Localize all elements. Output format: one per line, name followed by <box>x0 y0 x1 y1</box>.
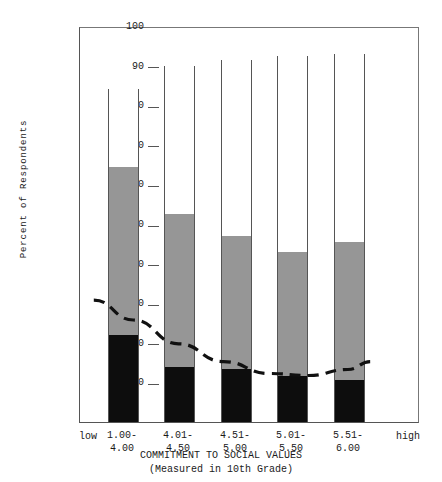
y-tick-line <box>148 305 159 306</box>
bar-5[interactable] <box>334 54 365 422</box>
bar-2-bottom-segment <box>165 367 194 422</box>
y-tick-line <box>148 384 159 385</box>
y-tick-line <box>148 344 159 345</box>
x-category-line: 4.51- <box>205 429 265 442</box>
y-tick-label: 90 <box>132 61 144 72</box>
plot-area: 100908070605040302010 <box>79 27 419 423</box>
bar-1-middle-segment <box>109 167 138 335</box>
x-category-line: 4.01- <box>148 429 208 442</box>
y-tick-line <box>148 226 159 227</box>
x-axis-title-sub: (Measured in 10th Grade) <box>0 463 442 477</box>
bar-3-bottom-segment <box>222 369 251 422</box>
bar-5-bottom-segment <box>335 380 364 422</box>
x-category-line: 5.51- <box>318 429 378 442</box>
y-tick-label: 100 <box>126 21 144 32</box>
x-category-line: 5.01- <box>261 429 321 442</box>
x-category-line: 1.00- <box>92 429 152 442</box>
y-tick-line <box>148 67 159 68</box>
bar-3-top-segment <box>222 60 251 236</box>
y-tick-line <box>148 265 159 266</box>
chart-figure: Percent of Respondents 10090807060504030… <box>0 0 442 482</box>
x-axis-low-label: low <box>79 431 97 442</box>
x-axis-high-label: high <box>396 431 420 442</box>
bar-2[interactable] <box>164 66 195 422</box>
bar-3-middle-segment <box>222 236 251 369</box>
bar-4[interactable] <box>277 56 308 422</box>
bar-1-bottom-segment <box>109 335 138 422</box>
bar-5-top-segment <box>335 54 364 242</box>
bar-2-top-segment <box>165 66 194 215</box>
y-tick-line <box>148 146 159 147</box>
bar-4-bottom-segment <box>278 376 307 422</box>
bar-3[interactable] <box>221 60 252 422</box>
bar-1-top-segment <box>109 89 138 166</box>
y-tick-line <box>148 107 159 108</box>
y-tick-line <box>148 186 159 187</box>
bar-4-middle-segment <box>278 252 307 377</box>
x-axis-title-main: COMMITMENT TO SOCIAL VALUES <box>140 450 302 461</box>
bar-1[interactable] <box>108 89 139 422</box>
bar-5-middle-segment <box>335 242 364 381</box>
bar-4-top-segment <box>278 56 307 252</box>
bar-2-middle-segment <box>165 214 194 366</box>
y-axis-title: Percent of Respondents <box>19 99 29 279</box>
x-axis-title: COMMITMENT TO SOCIAL VALUES (Measured in… <box>0 449 442 477</box>
